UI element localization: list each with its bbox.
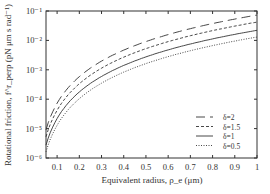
x-tick-label: 0.5 bbox=[141, 162, 152, 172]
y-tick-label: 10⁻² bbox=[26, 35, 43, 45]
x-tick-label: 0.3 bbox=[96, 162, 107, 172]
chart: Rotational friction, f^r_perp (pN μm s r… bbox=[0, 0, 270, 194]
x-tick-label: 0.7 bbox=[185, 162, 196, 172]
x-tick-label: 0.4 bbox=[118, 162, 129, 172]
y-tick-label: 10⁻⁶ bbox=[26, 153, 43, 163]
x-tick-label: 0.9 bbox=[229, 162, 240, 172]
y-tick-label: 10⁻⁴ bbox=[26, 94, 43, 104]
y-axis-label: Rotational friction, f^r_perp (pN μm s r… bbox=[3, 4, 13, 166]
x-tick-label: 0.8 bbox=[207, 162, 218, 172]
legend-label: δ=1.5 bbox=[223, 123, 240, 132]
legend-label: δ=2 bbox=[223, 113, 235, 122]
x-tick-label: 0.1 bbox=[52, 162, 63, 172]
y-tick-label: 10⁻³ bbox=[26, 65, 43, 75]
y-tick-label: 10⁻¹ bbox=[26, 6, 43, 16]
x-tick-label: 1 bbox=[255, 162, 259, 172]
legend: δ=2δ=1.5δ=1δ=0.5 bbox=[196, 113, 240, 151]
x-tick-label: 0.2 bbox=[74, 162, 85, 172]
x-tick-label: 0.6 bbox=[163, 162, 174, 172]
legend-label: δ=0.5 bbox=[223, 142, 240, 151]
x-axis-label: Equivalent radius, ρ_e (μm) bbox=[102, 175, 203, 185]
y-tick-label: 10⁻⁵ bbox=[26, 124, 43, 134]
y-axis-label-text: Rotational friction, f^r_perp (pN μm s r… bbox=[3, 4, 13, 166]
legend-label: δ=1 bbox=[223, 132, 235, 141]
